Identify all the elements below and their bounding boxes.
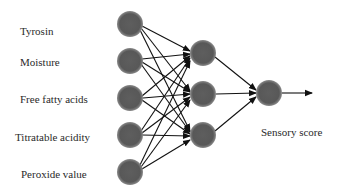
input-node-tyrosin <box>117 11 143 37</box>
input-node-free-fatty-acids <box>117 85 143 111</box>
input-node-peroxide-value <box>117 159 143 185</box>
hidden-layer <box>190 40 216 148</box>
output-node <box>256 80 282 106</box>
hidden-node-2 <box>190 81 216 107</box>
hidden-node-1 <box>190 40 216 66</box>
input-label-peroxide-value: Peroxide value <box>21 168 87 180</box>
input-label-free-fatty-acids: Free fatty acids <box>20 93 88 105</box>
hidden-node-3 <box>190 122 216 148</box>
hidden-output-edges <box>215 57 256 131</box>
input-hidden-edges <box>140 26 190 169</box>
input-label-tyrosin: Tyrosin <box>20 25 53 37</box>
input-node-moisture <box>117 48 143 74</box>
input-layer <box>117 11 143 185</box>
input-node-titratable-acidity <box>117 122 143 148</box>
input-label-titratable-acidity: Titratable acidity <box>15 131 90 143</box>
neural-network-diagram: Tyrosin Moisture Free fatty acids Titrat… <box>0 0 348 196</box>
input-label-moisture: Moisture <box>20 56 60 68</box>
output-label-sensory-score: Sensory score <box>261 126 322 138</box>
